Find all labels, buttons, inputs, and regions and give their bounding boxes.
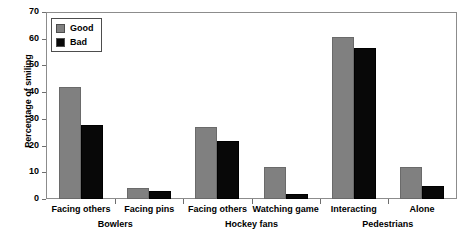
y-tick-label: 20 bbox=[29, 139, 39, 151]
x-axis-label: Facing others bbox=[47, 204, 115, 214]
bar-group bbox=[115, 13, 183, 199]
y-tick-mark bbox=[42, 172, 46, 173]
bars-layer bbox=[47, 13, 456, 199]
bar-group bbox=[320, 13, 388, 199]
legend-label-bad: Bad bbox=[70, 37, 87, 47]
y-tick-label: 70 bbox=[29, 5, 39, 17]
bar-bad bbox=[217, 141, 239, 199]
y-tick-mark bbox=[42, 39, 46, 40]
y-tick-mark bbox=[42, 119, 46, 120]
x-axis-label: Interacting bbox=[320, 204, 388, 214]
y-tick-label: 50 bbox=[29, 58, 39, 70]
x-axis-label: Facing pins bbox=[115, 204, 183, 214]
y-tick-label: 40 bbox=[29, 85, 39, 97]
y-tick-mark bbox=[42, 146, 46, 147]
legend-item-good: Good bbox=[56, 22, 94, 34]
x-axis-group-label: Pedestrians bbox=[352, 219, 423, 229]
bar-group bbox=[252, 13, 320, 199]
y-tick-mark bbox=[42, 12, 46, 13]
x-axis-label: Watching game bbox=[252, 204, 320, 214]
bar-good bbox=[264, 167, 286, 199]
bar-good bbox=[332, 37, 354, 199]
y-tick-label: 60 bbox=[29, 32, 39, 44]
y-tick-mark bbox=[42, 92, 46, 93]
bar-good bbox=[400, 167, 422, 199]
y-tick-label: 30 bbox=[29, 112, 39, 124]
x-axis-label: Facing others bbox=[183, 204, 251, 214]
bar-bad bbox=[286, 194, 308, 199]
x-axis-group-label: Bowlers bbox=[80, 219, 151, 229]
bar-bad bbox=[149, 191, 171, 199]
y-tick-label: 0 bbox=[34, 192, 39, 204]
bar-bad bbox=[81, 125, 103, 199]
legend-label-good: Good bbox=[70, 23, 94, 33]
legend-swatch-good-icon bbox=[56, 24, 65, 33]
bar-good bbox=[127, 188, 149, 199]
y-tick-mark bbox=[42, 199, 46, 200]
bar-chart: Percentage of smiling 010203040506070 Fa… bbox=[0, 0, 470, 244]
bar-group bbox=[183, 13, 251, 199]
bar-group bbox=[388, 13, 456, 199]
bar-good bbox=[59, 87, 81, 199]
legend-swatch-bad-icon bbox=[56, 38, 65, 47]
x-axis-label: Alone bbox=[388, 204, 456, 214]
legend-item-bad: Bad bbox=[56, 36, 94, 48]
bar-bad bbox=[354, 48, 376, 199]
y-tick-label: 10 bbox=[29, 165, 39, 177]
bar-good bbox=[195, 127, 217, 199]
y-tick-mark bbox=[42, 65, 46, 66]
bar-bad bbox=[422, 186, 444, 199]
legend: Good Bad bbox=[51, 18, 102, 52]
x-axis-group-label: Hockey fans bbox=[216, 219, 287, 229]
